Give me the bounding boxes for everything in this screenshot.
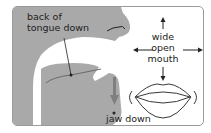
arrow-right-icon xyxy=(198,48,203,53)
mouth-label: wide open mouth xyxy=(143,31,183,64)
left-paren xyxy=(130,91,133,104)
tongue-label: back of tongue down xyxy=(27,11,89,33)
tongue-point xyxy=(70,74,73,77)
diagram-frame: back of tongue down jaw down wide open m… xyxy=(12,6,204,126)
arrow-down-icon xyxy=(161,76,166,81)
jaw-arrow-shaft xyxy=(113,77,116,97)
right-paren xyxy=(194,91,197,104)
mouth-opening-bottom xyxy=(136,97,190,103)
arrow-up-icon xyxy=(161,17,166,22)
jaw-label: jaw down xyxy=(106,113,151,124)
arrow-left-icon xyxy=(133,48,138,53)
mouth-opening-top xyxy=(136,92,190,97)
